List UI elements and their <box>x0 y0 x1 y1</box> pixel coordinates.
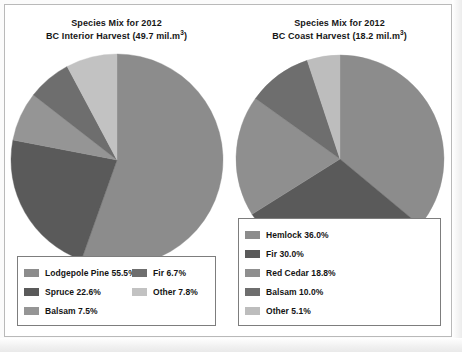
legend-coast-grid: Hemlock 36.0% Fir 30.0% Red Cedar 18.8% <box>245 225 435 320</box>
chart-title-coast-line1: Species Mix for 2012 <box>294 18 385 28</box>
legend-label-balsam-interior: Balsam 7.5% <box>45 306 98 316</box>
legend-interior-grid: Lodgepole Pine 55.5% Spruce 22.6% Balsam… <box>24 263 210 320</box>
legend-label-fir-coast: Fir 30.0% <box>266 249 304 259</box>
legend-swatch-balsam-interior <box>24 307 39 315</box>
panel-container: Species Mix for 2012 BC Interior Harvest… <box>5 5 451 336</box>
legend-swatch-lodgepole-pine <box>24 269 39 277</box>
legend-item-fir-coast[interactable]: Fir 30.0% <box>245 244 347 263</box>
legend-item-red-cedar[interactable]: Red Cedar 18.8% <box>245 263 347 282</box>
legend-item-fir-interior[interactable]: Fir 6.7% <box>132 263 210 282</box>
pie-slices-interior <box>11 54 223 266</box>
pie-chart-interior <box>5 53 228 268</box>
chart-title-interior-line2-close: ) <box>184 31 187 41</box>
chart-title-coast-line2-close: ) <box>404 31 407 41</box>
legend-label-lodgepole-pine: Lodgepole Pine 55.5% <box>45 268 136 278</box>
legend-interior-column-a: Lodgepole Pine 55.5% Spruce 22.6% Balsam… <box>24 263 132 320</box>
panel-bc-coast: Species Mix for 2012 BC Coast Harvest (1… <box>228 5 451 336</box>
legend-swatch-other-coast <box>245 307 260 315</box>
legend-coast: Hemlock 36.0% Fir 30.0% Red Cedar 18.8% <box>238 218 441 326</box>
pie-chart-interior-svg <box>10 53 224 267</box>
chart-title-interior: Species Mix for 2012 BC Interior Harvest… <box>5 17 228 42</box>
legend-label-other-coast: Other 5.1% <box>266 306 311 316</box>
chart-title-interior-line1: Species Mix for 2012 <box>71 18 162 28</box>
legend-swatch-spruce <box>24 288 39 296</box>
legend-label-red-cedar: Red Cedar 18.8% <box>266 268 336 278</box>
chart-title-coast-line2-text: BC Coast Harvest (18.2 mil.m <box>272 31 400 41</box>
scan-edge-right <box>452 0 462 352</box>
legend-swatch-fir-interior <box>132 269 147 277</box>
scan-edge-bottom <box>0 338 462 352</box>
legend-item-other-coast[interactable]: Other 5.1% <box>245 301 337 320</box>
legend-label-other-interior: Other 7.8% <box>153 287 198 297</box>
legend-swatch-other-interior <box>132 288 147 296</box>
legend-item-balsam-coast[interactable]: Balsam 10.0% <box>245 282 337 301</box>
chart-title-interior-line2-text: BC Interior Harvest (49.7 mil.m <box>46 31 180 41</box>
legend-item-balsam-interior[interactable]: Balsam 7.5% <box>24 301 132 320</box>
legend-swatch-balsam-coast <box>245 288 260 296</box>
legend-label-hemlock: Hemlock 36.0% <box>266 230 329 240</box>
legend-interior-column-b: Fir 6.7% Other 7.8% <box>132 263 210 320</box>
legend-item-other-interior[interactable]: Other 7.8% <box>132 282 210 301</box>
legend-coast-column-b: Balsam 10.0% Other 5.1% <box>245 282 337 320</box>
figure-frame: Species Mix for 2012 BC Interior Harvest… <box>4 4 452 337</box>
figure-page: Species Mix for 2012 BC Interior Harvest… <box>0 0 462 352</box>
legend-label-balsam-coast: Balsam 10.0% <box>266 287 323 297</box>
chart-title-coast-line2: BC Coast Harvest (18.2 mil.m3) <box>228 30 451 43</box>
legend-label-spruce: Spruce 22.6% <box>45 287 101 297</box>
chart-title-interior-line2: BC Interior Harvest (49.7 mil.m3) <box>5 30 228 43</box>
legend-item-lodgepole-pine[interactable]: Lodgepole Pine 55.5% <box>24 263 132 282</box>
legend-item-hemlock[interactable]: Hemlock 36.0% <box>245 225 347 244</box>
legend-interior: Lodgepole Pine 55.5% Spruce 22.6% Balsam… <box>17 256 216 326</box>
chart-title-coast: Species Mix for 2012 BC Coast Harvest (1… <box>228 17 451 42</box>
legend-coast-column-a: Hemlock 36.0% Fir 30.0% Red Cedar 18.8% <box>245 225 347 282</box>
legend-label-fir-interior: Fir 6.7% <box>153 268 186 278</box>
legend-swatch-red-cedar <box>245 269 260 277</box>
panel-bc-interior: Species Mix for 2012 BC Interior Harvest… <box>5 5 228 336</box>
legend-swatch-fir-coast <box>245 250 260 258</box>
legend-swatch-hemlock <box>245 231 260 239</box>
legend-item-spruce[interactable]: Spruce 22.6% <box>24 282 132 301</box>
